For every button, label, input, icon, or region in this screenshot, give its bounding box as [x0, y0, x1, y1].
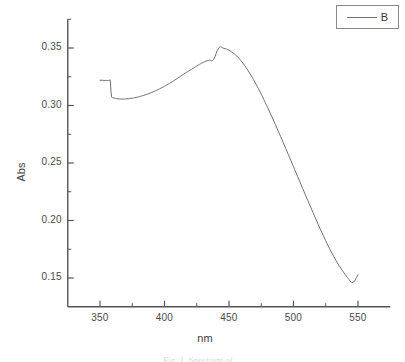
x-axis-tick-label: 400	[145, 312, 185, 323]
y-axis-tick-label: 0.15	[24, 271, 62, 282]
y-axis-tick-label: 0.20	[24, 214, 62, 225]
legend-line-swatch	[347, 17, 377, 18]
x-axis-tick-label: 550	[338, 312, 378, 323]
y-axis-tick-label: 0.30	[24, 99, 62, 110]
legend-entry: B	[337, 6, 398, 28]
x-axis-title: nm	[185, 332, 225, 344]
legend[interactable]: B	[336, 5, 399, 29]
y-axis-tick-label: 0.35	[24, 41, 62, 52]
legend-entry-label: B	[381, 12, 388, 23]
spectrum-plot	[0, 0, 405, 362]
chart-figure: Abs nm B Fig. 1. Spectrum of ... 0.150.2…	[0, 0, 405, 362]
figure-caption: Fig. 1. Spectrum of ...	[0, 355, 405, 362]
series-line-B	[100, 47, 358, 283]
x-axis-tick-label: 500	[274, 312, 314, 323]
x-axis-tick-label: 350	[80, 312, 120, 323]
x-axis-tick-label: 450	[209, 312, 249, 323]
y-axis-tick-label: 0.25	[24, 156, 62, 167]
